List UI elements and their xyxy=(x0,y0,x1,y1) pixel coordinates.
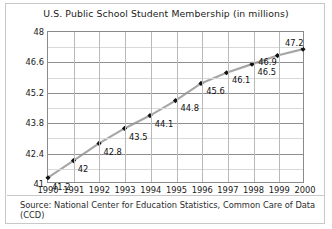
x-axis-tick-label: 1994 xyxy=(140,185,161,195)
vertical-gridline xyxy=(279,32,280,182)
data-point-label: 44.8 xyxy=(181,103,199,113)
vertical-gridline xyxy=(99,32,100,182)
data-point-label: 42 xyxy=(78,164,89,174)
vertical-gridline xyxy=(228,32,229,182)
x-axis-tick-label: 1996 xyxy=(192,185,213,195)
vertical-gridline xyxy=(202,32,203,182)
minor-gridline xyxy=(48,78,303,79)
data-point-label: 44.1 xyxy=(155,119,173,129)
data-point-label: 46.9 xyxy=(258,57,276,67)
major-gridline xyxy=(48,123,303,124)
membership-line-series xyxy=(48,32,303,182)
source-note: Source: National Center for Education St… xyxy=(20,200,320,220)
y-axis-tick-label: 42.4 xyxy=(26,149,44,159)
x-axis-tick-label: 1993 xyxy=(115,185,136,195)
x-axis-tick-label: 1999 xyxy=(269,185,290,195)
x-axis-tick-label: 1995 xyxy=(166,185,187,195)
vertical-gridline xyxy=(74,32,75,182)
data-point-label: 43.5 xyxy=(129,132,147,142)
plot-wrapper: 4142.443.845.246.64819901991199219931994… xyxy=(47,31,304,183)
data-point-label: 46.5 xyxy=(258,67,276,77)
data-point-label: 45.6 xyxy=(206,86,224,96)
data-point-label: 42.8 xyxy=(103,147,121,157)
source-divider xyxy=(7,195,325,196)
chart-figure: U.S. Public School Student Membership (i… xyxy=(5,3,325,224)
vertical-gridline xyxy=(177,32,178,182)
x-axis-tick-label: 2000 xyxy=(294,185,315,195)
y-axis-tick-label: 43.8 xyxy=(26,118,44,128)
y-axis-tick-label: 48 xyxy=(33,27,44,37)
minor-gridline xyxy=(48,138,303,139)
data-point-label: 46.1 xyxy=(232,75,250,85)
x-axis-tick-label: 1998 xyxy=(243,185,264,195)
data-point-label: 41.2 xyxy=(52,182,70,192)
vertical-gridline xyxy=(125,32,126,182)
y-axis-tick-label: 46.6 xyxy=(26,57,44,67)
data-point-label: 47.2 xyxy=(285,38,303,48)
major-gridline xyxy=(48,154,303,155)
vertical-gridline xyxy=(254,32,255,182)
plot-area: 4142.443.845.246.64819901991199219931994… xyxy=(47,31,304,183)
minor-gridline xyxy=(48,108,303,109)
x-axis-tick-label: 1997 xyxy=(217,185,238,195)
chart-title: U.S. Public School Student Membership (i… xyxy=(6,8,326,19)
x-axis-tick-label: 1992 xyxy=(89,185,110,195)
y-axis-tick-label: 45.2 xyxy=(26,88,44,98)
minor-gridline xyxy=(48,47,303,48)
vertical-gridline xyxy=(151,32,152,182)
major-gridline xyxy=(48,93,303,94)
